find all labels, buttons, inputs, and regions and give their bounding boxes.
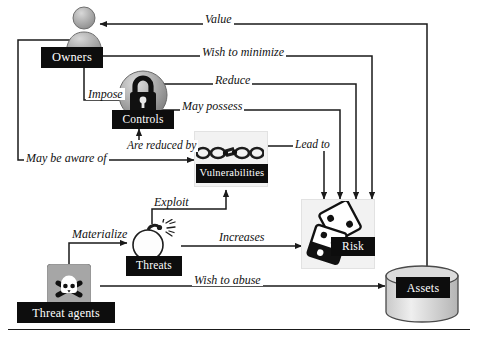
edge-label-may-be-aware-of: May be aware of <box>24 152 109 164</box>
risk-label: Risk <box>331 237 375 256</box>
vulnerabilities-label: Vulnerabilities <box>196 164 268 183</box>
edge-label-increases: Increases <box>217 231 267 243</box>
edge-label-wish-to-minimize: Wish to minimize <box>200 46 286 58</box>
edge-label-lead-to: Lead to <box>293 139 332 151</box>
bottom-divider <box>8 329 470 330</box>
edge-lead-to <box>266 146 324 199</box>
edge-label-materialize: Materialize <box>70 228 129 240</box>
controls-label: Controls <box>112 110 174 129</box>
threats-label: Threats <box>126 256 182 276</box>
edge-label-may-possess: May possess <box>180 100 244 112</box>
edge-label-exploit: Exploit <box>152 196 191 208</box>
node-risk[interactable] <box>303 201 371 269</box>
edge-label-impose: Impose <box>86 88 125 100</box>
owners-label: Owners <box>41 47 103 68</box>
edge-label-reduce: Reduce <box>213 74 252 86</box>
diagram-canvas: Owners Controls <box>0 0 478 339</box>
threat-agents-label: Threat agents <box>17 302 115 323</box>
edge-label-are-reduced-by: Are reduced by <box>125 140 198 152</box>
edge-materialize <box>69 243 127 264</box>
edge-label-wish-to-abuse: Wish to abuse <box>192 274 263 286</box>
broken-chain-icon <box>196 140 264 166</box>
assets-label: Assets <box>396 277 450 298</box>
edge-label-value: Value <box>203 13 234 25</box>
